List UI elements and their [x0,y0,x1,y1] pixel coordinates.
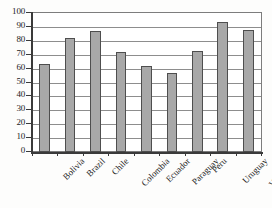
x-axis-label-chile: Chile [109,156,130,177]
y-tick-label: 20 [1,118,25,127]
bar [39,64,50,152]
y-tick-label: 50 [1,77,25,86]
bar [90,31,101,152]
x-tick-mark [236,152,237,156]
bar [243,30,254,152]
y-tick-label: 80 [1,35,25,44]
x-tick-mark [57,152,58,156]
y-tick-label: 30 [1,104,25,113]
y-tick-label: 70 [1,49,25,58]
bar [167,73,178,152]
x-tick-mark [134,152,135,156]
bar [141,66,152,152]
x-tick-mark [210,152,211,156]
x-tick-mark [108,152,109,156]
y-axis-tick-labels: 1009080706050403020100 [0,0,25,208]
x-tick-mark [159,152,160,156]
x-axis-label-colombia: Colombia [139,156,171,188]
bar-chart-figure: 1009080706050403020100 BoliviaBrazilChil… [0,0,272,208]
x-tick-mark [32,152,33,156]
x-tick-mark [83,152,84,156]
y-tick-label: 90 [1,21,25,30]
y-tick-label: 0 [1,146,25,155]
bar [65,38,76,152]
y-tick-label: 100 [1,7,25,16]
x-axis-label-bolivia: Bolivia [60,156,86,182]
bar [192,51,203,152]
bar-series [32,13,261,152]
bar [116,52,127,152]
x-axis-line [31,152,263,154]
y-tick-label: 10 [1,132,25,141]
y-tick-label: 40 [1,90,25,99]
x-axis-label-uruguay: Uruguay [240,156,269,185]
y-tick-label: 60 [1,63,25,72]
x-axis-label-brazil: Brazil [85,156,108,179]
bar [217,22,228,152]
